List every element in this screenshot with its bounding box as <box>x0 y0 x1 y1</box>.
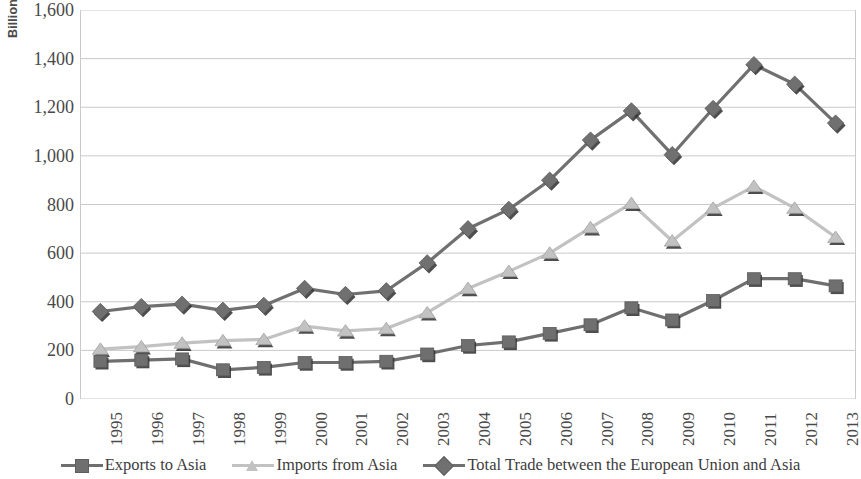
legend-swatch <box>232 458 274 472</box>
x-axis-tick-label: 1999 <box>271 412 291 446</box>
x-axis-tick-label: 2000 <box>312 412 332 446</box>
triangle-marker <box>246 460 258 471</box>
legend-item[interactable]: Exports to Asia <box>61 455 207 475</box>
legend-item[interactable]: Total Trade between the European Union a… <box>423 455 800 475</box>
x-axis-tick-label: 2007 <box>598 412 618 446</box>
legend-label: Imports from Asia <box>276 455 397 475</box>
legend-label: Exports to Asia <box>105 455 207 475</box>
x-axis-tick-label: 2010 <box>720 412 740 446</box>
chart-legend: Exports to AsiaImports from AsiaTotal Tr… <box>0 452 861 478</box>
legend-swatch <box>423 458 465 472</box>
x-axis-tick-label: 2011 <box>761 413 781 446</box>
x-axis-tick-label: 2009 <box>679 412 699 446</box>
square-marker <box>75 459 89 473</box>
x-axis-tick-label: 2005 <box>516 412 536 446</box>
x-axis-tick-label: 2012 <box>802 412 822 446</box>
diamond-marker <box>435 456 455 476</box>
x-axis-tick-labels: 1995199619971998199920002001200220032004… <box>0 0 861 479</box>
legend-item[interactable]: Imports from Asia <box>232 455 397 475</box>
legend-swatch <box>61 458 103 472</box>
x-axis-tick-label: 2006 <box>557 412 577 446</box>
legend-label: Total Trade between the European Union a… <box>467 455 800 475</box>
x-axis-tick-label: 2013 <box>843 412 861 446</box>
x-axis-tick-label: 1996 <box>148 412 168 446</box>
trade-line-chart: Billions 1,6001,4001,2001,00080060040020… <box>0 0 861 479</box>
x-axis-tick-label: 2004 <box>475 412 495 446</box>
x-axis-tick-label: 2003 <box>434 412 454 446</box>
x-axis-tick-label: 1995 <box>107 412 127 446</box>
x-axis-tick-label: 1997 <box>189 412 209 446</box>
x-axis-tick-label: 2001 <box>352 412 372 446</box>
x-axis-tick-label: 2002 <box>393 412 413 446</box>
x-axis-tick-label: 1998 <box>230 412 250 446</box>
x-axis-tick-label: 2008 <box>638 412 658 446</box>
